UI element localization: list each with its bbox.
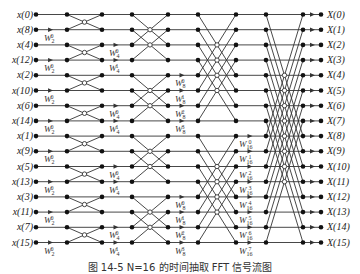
node-dot: [234, 73, 239, 78]
node-dot: [264, 195, 269, 200]
crossing-ring: [148, 164, 152, 168]
node-dot: [301, 43, 306, 48]
node-dot: [264, 73, 269, 78]
node-dot: [264, 12, 269, 17]
input-label: x(5): [0, 162, 33, 172]
crossing-ring: [282, 88, 286, 92]
node-dot: [65, 195, 70, 200]
node-dot: [301, 195, 306, 200]
node-dot: [301, 179, 306, 184]
crossing-ring: [148, 225, 152, 229]
node-dot: [100, 179, 105, 184]
node-dot: [166, 164, 171, 169]
node-dot: [264, 225, 269, 230]
twiddle-factor-label: W165: [239, 214, 252, 228]
node-dot: [34, 149, 39, 154]
node-dot: [34, 164, 39, 169]
twiddle-factor-label: W20: [44, 32, 54, 46]
arrow-icon: [310, 119, 315, 123]
twiddle-factor-label: W80: [175, 199, 185, 213]
node-dot: [130, 58, 135, 63]
output-label: X(3): [327, 55, 345, 65]
output-label: X(9): [327, 146, 345, 156]
node-dot: [130, 195, 135, 200]
twiddle-factor-label: W166: [239, 229, 252, 243]
arrow-icon: [310, 240, 315, 244]
crossing-ring: [282, 104, 286, 108]
input-label: x(6): [0, 101, 33, 111]
crossing-ring: [215, 210, 219, 214]
node-dot: [34, 225, 39, 230]
node-dot: [196, 58, 201, 63]
twiddle-factor-label: W163: [239, 184, 252, 198]
node-dot: [264, 240, 269, 245]
crossing-ring: [282, 73, 286, 77]
node-dot: [196, 119, 201, 124]
crossing-ring: [148, 28, 152, 32]
node-dot: [130, 103, 135, 108]
node-dot: [65, 164, 70, 169]
node-dot: [130, 27, 135, 32]
node-dot: [234, 58, 239, 63]
arrow-icon: [310, 134, 315, 138]
twiddle-factor-label: W41: [109, 62, 119, 76]
node-dot: [264, 58, 269, 63]
node-dot: [65, 88, 70, 93]
twiddle-factor-label: W167: [239, 245, 252, 259]
node-dot: [65, 179, 70, 184]
node-dot: [319, 119, 324, 124]
node-dot: [319, 195, 324, 200]
node-dot: [100, 43, 105, 48]
node-dot: [196, 149, 201, 154]
node-dot: [130, 149, 135, 154]
node-dot: [65, 103, 70, 108]
node-dot: [166, 149, 171, 154]
node-dot: [65, 149, 70, 154]
output-label: X(5): [327, 86, 345, 96]
node-dot: [65, 225, 70, 230]
node-dot: [100, 240, 105, 245]
node-dot: [319, 149, 324, 154]
node-dot: [196, 73, 201, 78]
node-dot: [100, 119, 105, 124]
crossing-ring: [282, 164, 286, 168]
node-dot: [234, 179, 239, 184]
output-label: X(2): [327, 40, 345, 50]
node-dot: [196, 179, 201, 184]
node-dot: [166, 103, 171, 108]
crossing-ring: [82, 172, 86, 176]
node-dot: [234, 134, 239, 139]
input-label: x(13): [0, 177, 33, 187]
node-dot: [65, 27, 70, 32]
node-dot: [264, 149, 269, 154]
node-dot: [319, 27, 324, 32]
twiddle-factor-label: W41: [109, 184, 119, 198]
node-dot: [100, 134, 105, 139]
node-dot: [234, 225, 239, 230]
node-dot: [166, 43, 171, 48]
node-dot: [301, 240, 306, 245]
node-dot: [264, 103, 269, 108]
node-dot: [166, 27, 171, 32]
twiddle-factor-label: W81: [175, 214, 185, 228]
node-dot: [234, 240, 239, 245]
twiddle-factor-label: W81: [175, 93, 185, 107]
node-dot: [264, 119, 269, 124]
input-label: x(9): [0, 146, 33, 156]
twiddle-factor-label: W20: [44, 184, 54, 198]
arrow-icon: [310, 180, 315, 184]
input-label: x(4): [0, 40, 33, 50]
node-dot: [65, 134, 70, 139]
node-dot: [264, 43, 269, 48]
output-label: X(10): [327, 162, 350, 172]
input-label: x(3): [0, 192, 33, 202]
node-dot: [65, 58, 70, 63]
input-label: x(8): [0, 25, 33, 35]
node-dot: [196, 225, 201, 230]
node-dot: [234, 43, 239, 48]
node-dot: [319, 58, 324, 63]
node-dot: [234, 149, 239, 154]
crossing-ring: [215, 73, 219, 77]
twiddle-factor-label: W40: [109, 169, 119, 183]
node-dot: [319, 103, 324, 108]
